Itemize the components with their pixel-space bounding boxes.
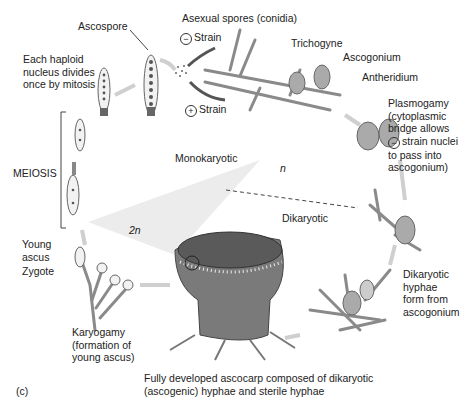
minus-strain-label: −Strain [180,31,221,45]
dikaryotic-hyphae-label: Dikaryotichyphaeform fromascogonium [403,268,460,318]
minus-strain-arrow [188,48,215,66]
mitosis-label: Each haploidnucleus dividesonce by mitos… [23,53,95,91]
ascocarp-cup-icon [170,232,295,360]
asexual-spores-label: Asexual spores (conidia) [182,12,297,25]
young-ascus-label: Youngascus [22,238,51,263]
monokaryotic-label: Monokaryotic [175,152,237,165]
ascogonium-label: Ascogonium [343,51,401,64]
minus-circle-icon: − [388,137,400,149]
antheridium-icon [314,65,330,89]
panel-label: (c) [16,385,28,398]
diploid-label: 2n [129,224,141,237]
minus-circle-icon: − [180,33,192,45]
zygote-label: Zygote [22,265,54,278]
spore-cluster-icon [175,65,187,77]
dikaryotic-label: Dikaryotic [282,212,328,225]
ascocarp-label: Fully developed ascocarp composed of dik… [144,372,373,397]
ascogonium-icon [289,72,305,94]
ascospore-label: Ascospore [78,20,128,33]
meiosis-label: MEIOSIS [13,167,57,180]
karyogamy-label: Karyogamy(formation ofyoung ascus) [72,326,134,364]
haploid-label: n [280,162,286,175]
plus-strain-label: +Strain [185,103,226,117]
ascus-with-ascospores-icon [130,30,158,116]
phase-divider [226,190,358,208]
mitosis-ascus-icon [98,68,110,116]
meiosis-ascus-icons [61,112,85,228]
plus-circle-icon: + [185,105,197,117]
plasmogamy-label: Plasmogamy(cytoplasmicbridge allows −str… [388,97,458,174]
trichogyne-label: Trichogyne [291,37,343,50]
antheridium-label: Antheridium [362,71,418,84]
